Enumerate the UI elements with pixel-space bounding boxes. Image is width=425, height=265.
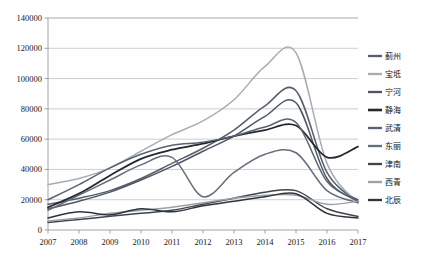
legend-label-5[interactable]: 东丽 <box>385 141 401 151</box>
legend-label-7[interactable]: 西青 <box>385 177 401 187</box>
x-axis-tick-label: 2014 <box>257 237 275 247</box>
legend-label-4[interactable]: 武清 <box>385 123 401 133</box>
x-axis-tick-label: 2007 <box>40 237 57 247</box>
gridlines-group <box>48 18 358 230</box>
y-axis-tick-label: 100000 <box>17 74 43 84</box>
x-axis-tick-label: 2012 <box>195 237 212 247</box>
y-axis-tick-label: 0 <box>38 225 42 235</box>
x-axis-tick-label: 2008 <box>71 237 88 247</box>
legend-label-6[interactable]: 津南 <box>385 159 401 169</box>
y-axis-tick-labels: 020000400006000080000100000120000140000 <box>17 13 43 235</box>
line-chart: 020000400006000080000100000120000140000 … <box>0 0 425 265</box>
x-axis-tick-label: 2009 <box>102 237 119 247</box>
y-axis-tick-label: 80000 <box>21 104 42 114</box>
legend-label-1[interactable]: 宝坻 <box>385 69 401 79</box>
x-axis-tick-label: 2013 <box>226 237 243 247</box>
y-axis-tick-label: 40000 <box>21 164 42 174</box>
x-axis-tick-label: 2016 <box>319 237 336 247</box>
series-line-5 <box>48 150 358 211</box>
legend-label-2[interactable]: 宁河 <box>385 87 401 97</box>
y-axis-tick-label: 60000 <box>21 134 42 144</box>
series-line-2 <box>48 100 358 209</box>
series-line-1 <box>48 47 358 203</box>
legend-label-0[interactable]: 蓟州 <box>385 51 401 61</box>
legend-label-3[interactable]: 静海 <box>385 105 401 115</box>
x-axis-tick-label: 2010 <box>133 237 150 247</box>
data-series-group <box>48 47 358 222</box>
x-axis-tick-label: 2015 <box>288 237 305 247</box>
x-axis-tick-labels: 2007200820092010201120122013201420152016… <box>40 237 367 247</box>
chart-container: 020000400006000080000100000120000140000 … <box>0 0 425 265</box>
y-axis-tick-label: 140000 <box>17 13 43 23</box>
y-axis-tick-label: 20000 <box>21 195 42 205</box>
y-axis-tick-label: 120000 <box>17 43 43 53</box>
legend: 蓟州宝坻宁河静海武清东丽津南西青北辰 <box>368 51 401 205</box>
x-axis-tick-label: 2017 <box>350 237 367 247</box>
legend-label-8[interactable]: 北辰 <box>385 196 401 205</box>
x-axis-tick-label: 2011 <box>164 237 181 247</box>
